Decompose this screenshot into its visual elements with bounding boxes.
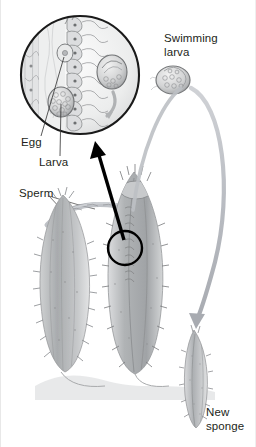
inset-pointer-arrow — [90, 141, 124, 240]
diagram-artwork — [1, 0, 256, 447]
larva-to-new-sponge-arrow — [189, 88, 224, 329]
label-new-sponge: New sponge — [206, 406, 244, 433]
swimming-larva-body — [150, 66, 190, 94]
magnified-tissue-inset — [21, 5, 139, 136]
label-egg: Egg — [21, 136, 42, 150]
embryo-in-inset — [97, 55, 127, 89]
label-sperm: Sperm — [19, 187, 53, 201]
label-swimming-larva: Swimming larva — [164, 32, 218, 59]
egg-cell-in-inset — [57, 44, 73, 62]
sponge-life-cycle-figure: Egg Larva Sperm Swimming larva New spong… — [0, 0, 256, 447]
parent-sponge-left — [33, 187, 97, 372]
label-larva: Larva — [39, 156, 68, 170]
